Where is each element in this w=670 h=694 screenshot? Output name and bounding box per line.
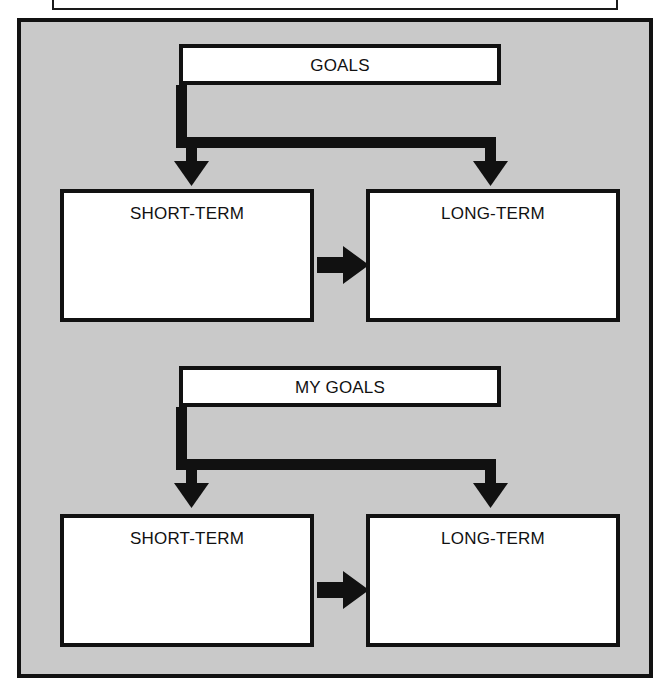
right-arrow-icon [317, 244, 371, 286]
node-short-term-1[interactable]: SHORT-TERM [60, 189, 314, 322]
node-my-goals[interactable]: MY GOALS [179, 366, 501, 407]
fork-down-split-arrow-icon [21, 85, 657, 169]
fork-connector-my-goals [21, 407, 657, 491]
right-arrow-icon [317, 569, 371, 611]
fork-connector-goals [21, 85, 657, 169]
node-goals-label: GOALS [183, 56, 497, 73]
node-long-term-2[interactable]: LONG-TERM [366, 514, 620, 647]
diagram-panel: GOALS SHORT-TERM [17, 18, 653, 678]
node-my-goals-label: MY GOALS [183, 378, 497, 395]
node-long-term-2-label: LONG-TERM [370, 529, 616, 549]
arrow-short-term-to-long-term-1 [317, 244, 371, 286]
cut-off-rectangle [52, 0, 618, 10]
diagram-canvas: GOALS SHORT-TERM [0, 0, 670, 694]
node-short-term-1-label: SHORT-TERM [64, 204, 310, 224]
node-goals[interactable]: GOALS [179, 44, 501, 85]
node-short-term-2[interactable]: SHORT-TERM [60, 514, 314, 647]
node-short-term-2-label: SHORT-TERM [64, 529, 310, 549]
node-long-term-1-label: LONG-TERM [370, 204, 616, 224]
fork-down-split-arrow-icon [21, 407, 657, 491]
node-long-term-1[interactable]: LONG-TERM [366, 189, 620, 322]
arrow-short-term-to-long-term-2 [317, 569, 371, 611]
